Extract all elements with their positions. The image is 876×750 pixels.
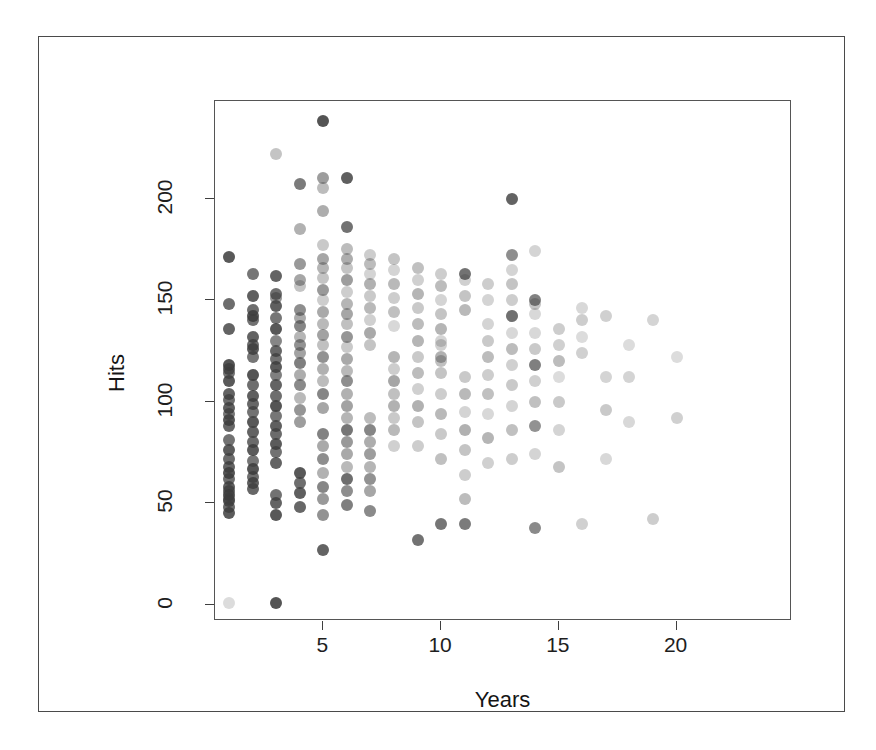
scatter-point (553, 396, 565, 408)
scatter-point (341, 253, 353, 265)
scatter-point (247, 314, 259, 326)
scatter-point (553, 371, 565, 383)
scatter-point (223, 394, 235, 406)
scatter-point (341, 400, 353, 412)
scatter-point (270, 369, 282, 381)
scatter-point (247, 463, 259, 475)
x-axis-title: Years (214, 687, 791, 713)
scatter-point (364, 268, 376, 280)
y-tick-label: 200 (143, 185, 187, 209)
scatter-point (435, 339, 447, 351)
scatter-point (388, 351, 400, 363)
plot-area (214, 100, 791, 620)
scatter-point (412, 274, 424, 286)
y-tick-label: 150 (143, 286, 187, 310)
scatter-point (412, 318, 424, 330)
scatter-point (317, 402, 329, 414)
scatter-point (223, 375, 235, 387)
scatter-point (317, 493, 329, 505)
scatter-point (294, 416, 306, 428)
scatter-point (270, 509, 282, 521)
scatter-point (506, 310, 518, 322)
scatter-point (294, 369, 306, 381)
scatter-point (247, 483, 259, 495)
scatter-point (364, 436, 376, 448)
scatter-point (247, 436, 259, 448)
scatter-point (341, 243, 353, 255)
scatter-point (247, 426, 259, 438)
scatter-point (341, 436, 353, 448)
x-tick-label: 5 (292, 633, 352, 657)
scatter-point (317, 294, 329, 306)
scatter-point (317, 284, 329, 296)
scatter-point (270, 353, 282, 365)
scatter-point (364, 485, 376, 497)
scatter-point (529, 420, 541, 432)
scatter-point (388, 292, 400, 304)
scatter-point (341, 318, 353, 330)
scatter-point (247, 398, 259, 410)
scatter-point (223, 467, 235, 479)
scatter-point (435, 355, 447, 367)
scatter-point (529, 294, 541, 306)
scatter-point (529, 327, 541, 339)
scatter-point (506, 310, 518, 322)
scatter-point (459, 371, 471, 383)
scatter-point (247, 310, 259, 322)
scatter-point (341, 365, 353, 377)
scatter-point (412, 440, 424, 452)
scatter-point (412, 400, 424, 412)
scatter-point (412, 335, 424, 347)
scatter-point (247, 290, 259, 302)
scatter-point (223, 501, 235, 513)
scatter-point (270, 312, 282, 324)
scatter-point (553, 424, 565, 436)
scatter-point (223, 444, 235, 456)
scatter-point (294, 320, 306, 332)
y-tick-mark (205, 401, 214, 402)
scatter-point (223, 420, 235, 432)
y-tick-mark (205, 299, 214, 300)
scatter-point (459, 518, 471, 530)
scatter-point (294, 339, 306, 351)
scatter-point (294, 477, 306, 489)
scatter-point (270, 361, 282, 373)
scatter-point (317, 306, 329, 318)
scatter-point (647, 513, 659, 525)
scatter-point (459, 274, 471, 286)
scatter-point (506, 453, 518, 465)
scatter-point (647, 314, 659, 326)
scatter-point (223, 359, 235, 371)
scatter-point (388, 440, 400, 452)
scatter-point (247, 477, 259, 489)
scatter-point (576, 314, 588, 326)
scatter-point (223, 298, 235, 310)
scatter-point (247, 406, 259, 418)
scatter-point (482, 432, 494, 444)
scatter-point (317, 544, 329, 556)
scatter-point (671, 351, 683, 363)
scatter-point (270, 420, 282, 432)
scatter-point (341, 341, 353, 353)
scatter-point (247, 471, 259, 483)
scatter-point (341, 448, 353, 460)
scatter-point (270, 457, 282, 469)
scatter-point (294, 404, 306, 416)
scatter-point (435, 453, 447, 465)
x-tick-label: 15 (528, 633, 588, 657)
scatter-point (317, 262, 329, 274)
scatter-point (270, 300, 282, 312)
scatter-point (553, 461, 565, 473)
scatter-point (529, 245, 541, 257)
scatter-point (506, 359, 518, 371)
scatter-point (435, 294, 447, 306)
scatter-point (576, 302, 588, 314)
y-tick-mark (205, 502, 214, 503)
scatter-point (270, 345, 282, 357)
scatter-point (247, 444, 259, 456)
scatter-point (341, 473, 353, 485)
scatter-point (388, 375, 400, 387)
scatter-point (247, 339, 259, 351)
scatter-point (435, 351, 447, 363)
scatter-point (482, 408, 494, 420)
